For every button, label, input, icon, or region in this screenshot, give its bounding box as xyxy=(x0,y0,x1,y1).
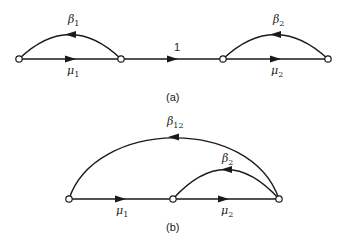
caption-b: (b) xyxy=(166,221,179,233)
arrow-right-icon xyxy=(65,56,76,63)
arrow-right-icon xyxy=(115,196,126,203)
arc-a4-a3-beta2 xyxy=(223,35,328,60)
arrow-right-icon xyxy=(167,56,178,63)
node-b2 xyxy=(170,196,176,202)
caption-a: (a) xyxy=(166,91,179,103)
label-beta2-b: β2 xyxy=(221,152,233,167)
label-beta12: β12 xyxy=(166,115,184,130)
arc-b3-b2-beta2 xyxy=(173,170,279,200)
label-beta2: β2 xyxy=(272,13,284,28)
node-a2 xyxy=(118,56,124,62)
diagram-b: β12 β2 μ1 μ2 (b) xyxy=(66,115,282,233)
state-transition-diagram: β1 μ1 1 β2 μ2 (a) β12 β2 μ1 μ2 (b) xyxy=(0,0,350,244)
node-a1 xyxy=(16,56,22,62)
node-b3 xyxy=(276,196,282,202)
arrow-right-icon xyxy=(218,196,229,203)
node-a3 xyxy=(220,56,226,62)
node-a4 xyxy=(325,56,331,62)
arrow-right-icon xyxy=(270,56,281,63)
arc-b3-b1-beta12 xyxy=(69,138,279,199)
label-mu2-b: μ2 xyxy=(221,204,233,219)
label-mu1: μ1 xyxy=(67,64,79,79)
arrow-left-icon xyxy=(221,166,232,173)
arrow-left-icon xyxy=(270,31,281,38)
label-beta1: β1 xyxy=(67,13,79,28)
arc-a2-a1-beta1 xyxy=(19,35,121,60)
label-mu2: μ2 xyxy=(271,64,283,79)
arrow-left-icon xyxy=(168,134,179,141)
diagram-a: β1 μ1 1 β2 μ2 (a) xyxy=(16,13,331,103)
node-b1 xyxy=(66,196,72,202)
label-mu1-b: μ1 xyxy=(116,204,128,219)
label-one: 1 xyxy=(174,41,180,53)
arrow-left-icon xyxy=(65,31,76,38)
